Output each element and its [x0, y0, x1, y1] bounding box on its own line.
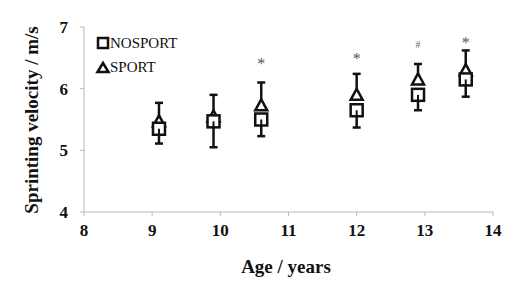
plot-area: [153, 50, 472, 147]
x-tick-label: 11: [280, 221, 296, 240]
sport-triangle-marker: [412, 73, 424, 84]
x-tick-label: 8: [80, 221, 89, 240]
significance-marker: *: [257, 55, 265, 72]
significance-marker: #: [416, 39, 421, 50]
legend-triangle-icon: [98, 63, 109, 72]
sport-triangle-marker: [255, 99, 267, 110]
significance-annotations: **#*: [257, 34, 470, 71]
data-point-group: [351, 74, 363, 128]
y-tick-label: 5: [60, 141, 69, 160]
axes: [84, 27, 493, 212]
x-tick-label: 9: [148, 221, 157, 240]
chart: 891011121314 4567 Age / years Sprinting …: [0, 0, 525, 292]
legend-square-icon: [98, 38, 108, 48]
data-point-group: [412, 64, 424, 110]
legend-label-sport: SPORT: [110, 59, 156, 75]
x-tick-label: 14: [485, 221, 503, 240]
y-tick-label: 6: [60, 80, 69, 99]
legend: NOSPORT SPORT: [98, 35, 178, 75]
y-axis-title: Sprinting velocity / m/s: [21, 26, 42, 213]
y-axis-ticks: 4567: [60, 18, 85, 222]
legend-label-nosport: NOSPORT: [110, 35, 177, 51]
y-tick-label: 7: [60, 18, 69, 37]
significance-marker: *: [353, 50, 361, 67]
x-tick-label: 12: [348, 221, 365, 240]
data-point-group: [460, 50, 472, 96]
x-tick-label: 10: [212, 221, 229, 240]
y-tick-label: 4: [60, 203, 69, 222]
x-axis-ticks: 891011121314: [80, 212, 502, 240]
x-tick-label: 13: [416, 221, 433, 240]
data-point-group: [255, 83, 267, 137]
significance-marker: *: [462, 34, 470, 51]
sport-triangle-marker: [351, 89, 363, 100]
data-point-group: [153, 103, 165, 144]
data-point-group: [208, 95, 220, 147]
x-axis-title: Age / years: [241, 256, 331, 277]
